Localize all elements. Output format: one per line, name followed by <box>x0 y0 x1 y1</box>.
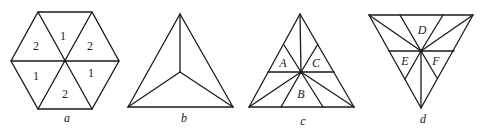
region-label-bottom: 2 <box>62 87 68 101</box>
region-label-bottom-left: 1 <box>33 69 39 83</box>
region-label-bottom-right: 1 <box>88 66 94 80</box>
spoke-bottom-right <box>301 72 354 107</box>
spoke-apex <box>300 14 301 72</box>
figure-c: A C B c <box>249 14 354 128</box>
figure-caption-c: c <box>300 114 306 128</box>
region-label-E: E <box>400 54 409 68</box>
region-label-top-left: 2 <box>33 39 39 53</box>
figure-b: b <box>128 14 233 125</box>
spoke-top-left <box>369 15 421 51</box>
hexagon-center-dot <box>63 59 66 62</box>
region-label-B: B <box>297 87 305 101</box>
region-label-F: F <box>431 54 440 68</box>
figure-caption-d: d <box>420 112 427 126</box>
region-label-top-right: 2 <box>87 39 93 53</box>
figure-d: D E F d <box>369 15 473 126</box>
spoke-top-right <box>421 15 473 51</box>
region-label-top: 1 <box>60 29 66 43</box>
figure-caption-a: a <box>64 111 70 125</box>
spoke-right <box>180 72 233 107</box>
spoke-left <box>128 72 180 107</box>
spoke-bottom-left <box>249 72 301 107</box>
centroid-dot <box>299 70 303 74</box>
centroid-dot <box>419 49 423 53</box>
figure-caption-b: b <box>181 111 187 125</box>
region-label-C: C <box>312 56 321 70</box>
region-label-D: D <box>417 23 427 37</box>
region-label-A: A <box>278 56 287 70</box>
figures-canvas: 1 2 2 1 1 2 a b A C B c <box>0 0 481 136</box>
figure-a: 1 2 2 1 1 2 a <box>11 12 119 125</box>
